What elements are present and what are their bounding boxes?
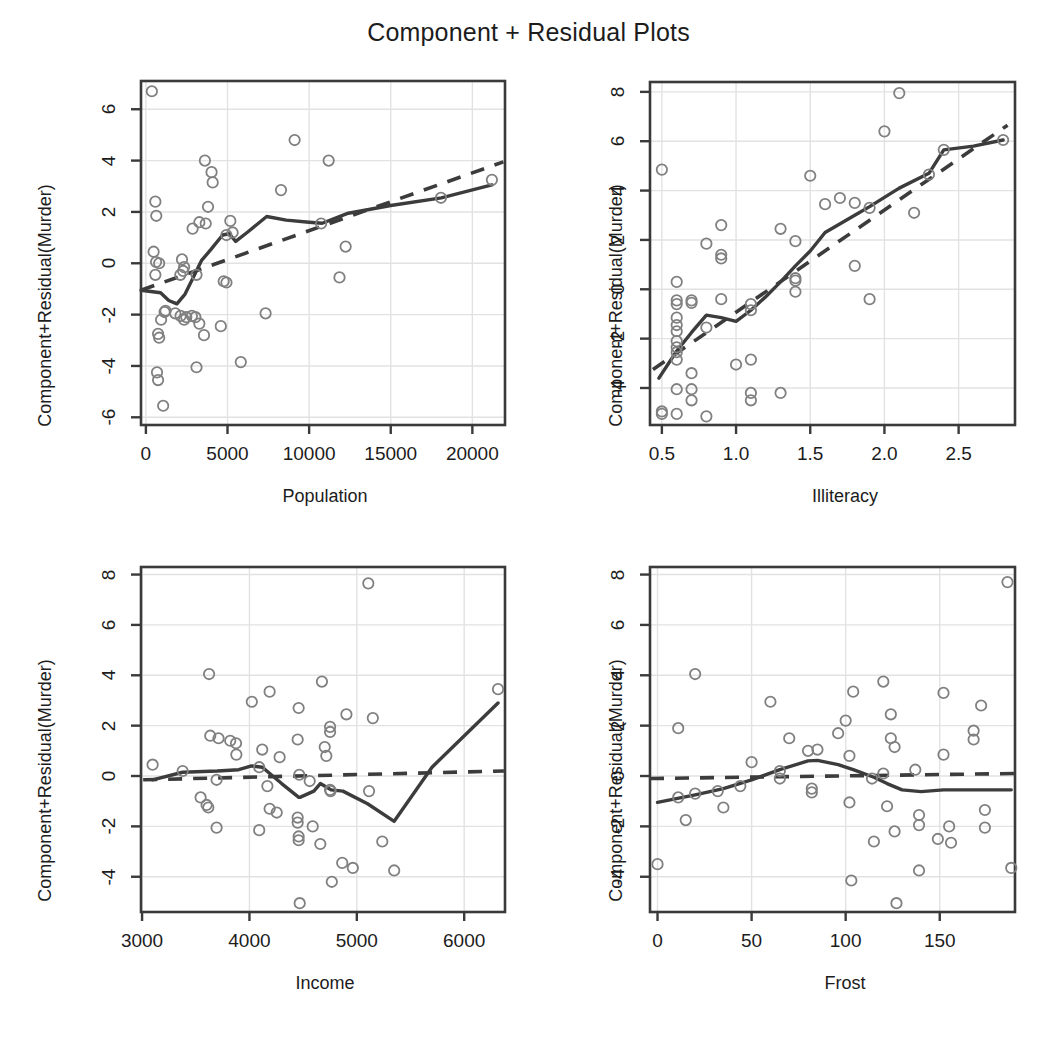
- data-point: [790, 287, 800, 297]
- x-tick-label: 3000: [92, 930, 192, 952]
- grid-lines: [141, 81, 505, 425]
- data-point: [672, 409, 682, 419]
- data-points: [147, 86, 497, 411]
- x-tick-label: 6000: [414, 930, 514, 952]
- data-point: [292, 734, 302, 744]
- y-tick-label: -6: [98, 392, 120, 442]
- data-point: [886, 709, 896, 719]
- data-point: [775, 388, 785, 398]
- panel-population-xlabel: Population: [140, 486, 510, 507]
- y-tick-label: -2: [607, 801, 629, 851]
- data-point: [315, 839, 325, 849]
- data-point: [701, 411, 711, 421]
- data-point: [150, 270, 160, 280]
- data-point: [850, 261, 860, 271]
- data-point: [493, 684, 503, 694]
- data-point: [716, 294, 726, 304]
- y-tick-label: 6: [98, 600, 120, 650]
- plot-frame: [141, 81, 505, 425]
- data-point: [864, 294, 874, 304]
- data-point: [672, 326, 682, 336]
- data-point: [225, 216, 235, 226]
- y-tick-label: 6: [98, 84, 120, 134]
- component-residual-plots-figure: Component + Residual Plots Component+Res…: [0, 0, 1057, 1055]
- data-point: [848, 686, 858, 696]
- data-point: [377, 836, 387, 846]
- data-point: [933, 834, 943, 844]
- x-tick-label: 5000: [307, 930, 407, 952]
- data-point: [686, 384, 696, 394]
- data-point: [364, 786, 374, 796]
- panel-income-xlabel: Income: [140, 973, 510, 994]
- y-tick-label: -2: [607, 314, 629, 364]
- data-point: [701, 322, 711, 332]
- data-point: [686, 368, 696, 378]
- y-tick-label: 4: [98, 136, 120, 186]
- data-point: [153, 375, 163, 385]
- y-tick-label: 4: [607, 166, 629, 216]
- panel-income-ylabel: Component+Residual(Murder): [35, 631, 56, 931]
- data-point: [368, 713, 378, 723]
- data-point: [891, 898, 901, 908]
- data-point: [673, 723, 683, 733]
- plot-frame: [141, 567, 505, 912]
- y-tick-label: 0: [98, 751, 120, 801]
- data-point: [187, 223, 197, 233]
- axis-ticks: [640, 575, 940, 921]
- data-point: [869, 836, 879, 846]
- data-point: [909, 208, 919, 218]
- data-point: [784, 733, 794, 743]
- y-tick-label: -4: [98, 341, 120, 391]
- data-point: [686, 395, 696, 405]
- grid-lines: [141, 567, 505, 912]
- y-tick-label: 6: [607, 600, 629, 650]
- data-point: [231, 749, 241, 759]
- data-point: [201, 218, 211, 228]
- y-tick-label: 8: [607, 550, 629, 600]
- data-point: [672, 384, 682, 394]
- data-point: [289, 135, 299, 145]
- data-point: [976, 700, 986, 710]
- y-tick-label: 4: [98, 650, 120, 700]
- data-point: [790, 236, 800, 246]
- data-point: [334, 272, 344, 282]
- data-point: [150, 196, 160, 206]
- panel-frost: Component+Residual(Murder) Frost 0501001…: [510, 545, 1057, 1015]
- data-point: [337, 858, 347, 868]
- data-point: [1002, 577, 1012, 587]
- data-point: [211, 822, 221, 832]
- y-tick-label: -4: [607, 852, 629, 902]
- data-point: [148, 247, 158, 257]
- y-tick-label: 6: [607, 116, 629, 166]
- data-point: [257, 744, 267, 754]
- data-point: [850, 198, 860, 208]
- y-tick-label: -4: [607, 363, 629, 413]
- x-tick-label: 50: [702, 930, 802, 952]
- y-tick-label: -2: [98, 290, 120, 340]
- data-point: [946, 838, 956, 848]
- x-tick-label: 20000: [422, 443, 522, 465]
- data-points: [657, 88, 1009, 422]
- data-point: [274, 752, 284, 762]
- linear-fit-line: [650, 773, 1015, 778]
- data-points: [652, 577, 1016, 908]
- y-tick-label: -4: [98, 852, 120, 902]
- y-tick-label: 8: [98, 550, 120, 600]
- data-point: [910, 765, 920, 775]
- data-point: [746, 354, 756, 364]
- y-tick-label: 0: [98, 238, 120, 288]
- data-point: [293, 703, 303, 713]
- data-point: [980, 805, 990, 815]
- data-point: [260, 308, 270, 318]
- data-point: [147, 86, 157, 96]
- panel-illiteracy: Component+Residual(Murder) Illiteracy 0.…: [510, 58, 1057, 528]
- grid-lines: [650, 82, 1015, 425]
- data-point: [304, 776, 314, 786]
- data-point: [206, 167, 216, 177]
- y-tick-label: 2: [98, 701, 120, 751]
- y-tick-label: 2: [607, 215, 629, 265]
- data-point: [264, 686, 274, 696]
- data-point: [716, 220, 726, 230]
- data-point: [363, 578, 373, 588]
- data-point: [191, 362, 201, 372]
